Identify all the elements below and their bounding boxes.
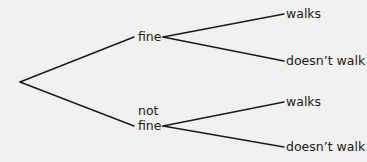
branch-root-to-not-fine bbox=[20, 82, 134, 126]
leaf-not-fine-walks-label: walks bbox=[286, 95, 321, 109]
tree-diagram: fine not fine walks doesn’t walk walks d… bbox=[0, 0, 367, 162]
branch-fine-to-doesnt-walk bbox=[163, 37, 284, 61]
leaf-fine-doesnt-walk-label: doesn’t walk bbox=[286, 54, 365, 68]
branch-fine-to-walks bbox=[163, 14, 284, 37]
node-fine-label: fine bbox=[138, 30, 162, 44]
node-not-fine-label-line2: fine bbox=[138, 119, 162, 133]
tree-branches bbox=[0, 0, 367, 162]
leaf-fine-walks-label: walks bbox=[286, 7, 321, 21]
branch-not-fine-to-walks bbox=[163, 102, 284, 126]
leaf-not-fine-doesnt-walk-label: doesn’t walk bbox=[286, 140, 365, 154]
branch-root-to-fine bbox=[20, 37, 134, 82]
branch-not-fine-to-doesnt-walk bbox=[163, 126, 284, 147]
node-not-fine-label-line1: not bbox=[138, 104, 158, 118]
